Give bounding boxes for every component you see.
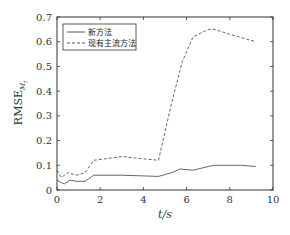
plot-area (57, 29, 256, 183)
legend-label-new-method: 新方法 (88, 27, 112, 37)
y-tick-label: 0.5 (36, 61, 52, 72)
y-tick-label: 0.2 (36, 135, 52, 146)
y-tick-label: 0.6 (36, 36, 52, 47)
y-tick-label: 0.1 (36, 160, 52, 171)
y-tick-label: 0.3 (36, 110, 52, 121)
series-new-method-line (57, 165, 256, 184)
y-tick-label: 0.7 (36, 12, 52, 23)
x-tick-label: 0 (54, 194, 60, 205)
series-existing-method-line (57, 29, 256, 177)
x-tick-label: 2 (97, 194, 103, 205)
rmse-line-chart: 0246810 00.10.20.30.40.50.60.7 t/s RMSEM… (0, 0, 290, 235)
legend: 新方法 现有主流方法 (63, 24, 136, 50)
x-tick-label: 6 (183, 194, 189, 205)
y-tick-label: 0 (46, 185, 52, 196)
x-tick-label: 10 (267, 194, 280, 205)
x-tick-label: 8 (227, 194, 233, 205)
legend-label-existing-method: 现有主流方法 (88, 38, 136, 48)
y-axis-label: RMSEMt (12, 80, 28, 125)
y-tick-label: 0.4 (36, 86, 52, 97)
x-axis-label: t/s (158, 208, 172, 221)
x-tick-label: 4 (140, 194, 146, 205)
